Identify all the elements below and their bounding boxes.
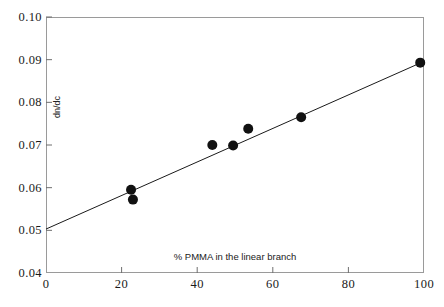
y-tick-label: 0.06 [2,181,42,196]
x-axis-title: % PMMA in the linear branch [46,251,424,262]
y-tick-label: 0.05 [2,223,42,238]
y-tick-label: 0.10 [2,10,42,25]
x-tick-label: 100 [414,277,434,292]
plot-canvas [46,17,424,273]
data-point [228,140,238,150]
chart-figure: 0.10 0.09 0.08 0.07 0.06 0.05 0.04 dn/dc… [0,0,444,307]
data-point [128,195,138,205]
data-point [207,140,217,150]
x-tick-label: 80 [342,277,356,292]
y-axis-title: dn/dc [52,96,62,118]
x-axis-ticks [122,267,349,273]
x-tick-label: 60 [266,277,280,292]
x-tick-label: 40 [190,277,204,292]
y-tick-label: 0.07 [2,138,42,153]
x-tick-label: 20 [115,277,129,292]
y-axis-ticks [46,17,52,230]
data-point [296,112,306,122]
data-points [126,58,425,205]
data-point [415,58,425,68]
y-axis-tick-labels: 0.10 0.09 0.08 0.07 0.06 0.05 0.04 [0,0,42,307]
y-tick-label: 0.09 [2,53,42,68]
x-tick-label: 0 [43,277,50,292]
x-axis-tick-labels: 0 20 40 60 80 100 [0,277,444,297]
data-point [243,124,253,134]
y-tick-label: 0.08 [2,95,42,110]
data-point [126,185,136,195]
